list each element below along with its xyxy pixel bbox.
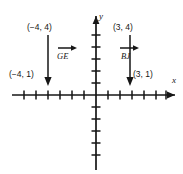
vector-ge-arrow [44, 35, 51, 86]
coordinate-plane-figure: (−4, 4) (−4, 1) (3, 4) (3, 1) GE BJ x y [0, 0, 183, 174]
x-axis-label: x [172, 76, 176, 85]
point-label-neg4-1: (−4, 1) [9, 70, 34, 79]
x-axis-arrowhead-icon [167, 92, 175, 99]
point-label-3-1: (3, 1) [133, 70, 153, 79]
point-label-3-4: (3, 4) [113, 23, 133, 32]
y-axis-label: y [99, 12, 103, 21]
vector-ge-overbar-arrow-icon [58, 45, 77, 51]
vector-bj-label: BJ [121, 52, 130, 61]
vector-ge-label: GE [57, 52, 68, 61]
point-label-neg4-4: (−4, 4) [27, 23, 52, 32]
